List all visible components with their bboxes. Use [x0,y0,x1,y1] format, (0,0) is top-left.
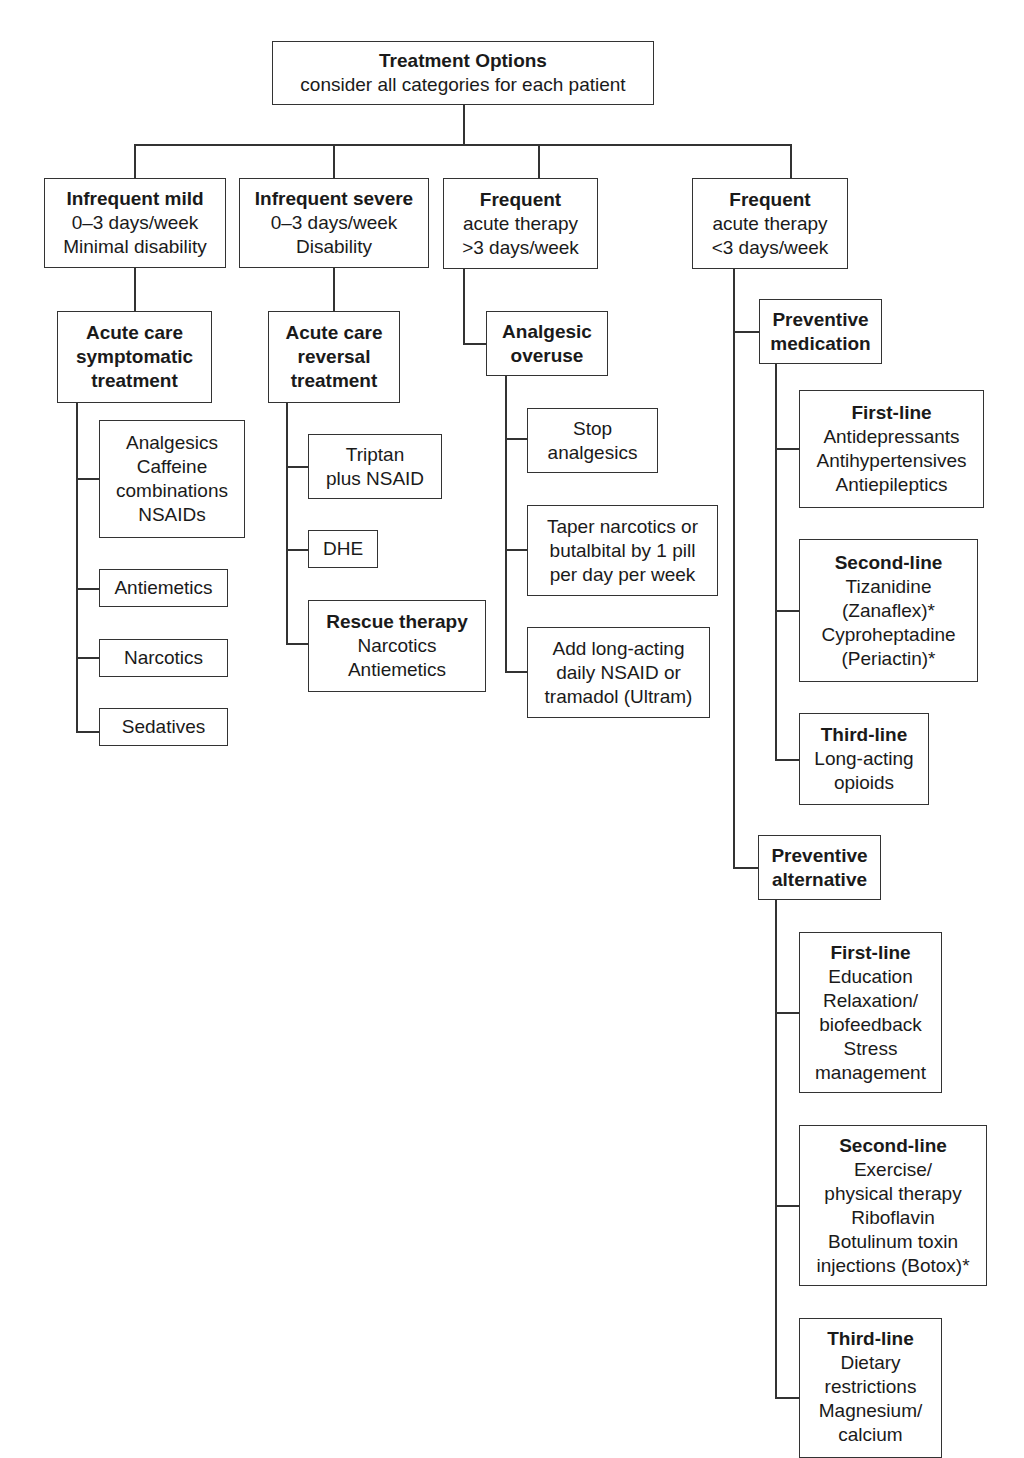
node-title: Third-line [827,1327,914,1351]
medication-first-line: First-line Antidepressants Antihypertens… [799,390,984,508]
connector [286,643,309,645]
symptomatic-item-antiemetics: Antiemetics [99,569,228,607]
connector [733,331,759,333]
node-title: Second-line [839,1134,947,1158]
item-line: injections (Botox)* [816,1254,969,1278]
item-line: NSAIDs [138,503,206,527]
node-title: Acute care [285,321,382,345]
symptomatic-item-narcotics: Narcotics [99,639,228,677]
category-frequent-under-3: Frequent acute therapy <3 days/week [692,178,848,269]
item-line: daily NSAID or [556,661,681,685]
item-line: Antiepileptics [836,473,948,497]
connector [463,105,465,145]
node-title: treatment [91,369,178,393]
node-title: treatment [291,369,378,393]
connector [286,402,288,644]
connector [790,144,792,179]
acute-care-reversal: Acute care reversal treatment [268,311,400,403]
item-line: DHE [323,537,363,561]
connector [76,731,100,733]
category-line: acute therapy [712,212,827,236]
item-line: butalbital by 1 pill [550,539,696,563]
item-line: biofeedback [819,1013,921,1037]
root-title: Treatment Options [379,49,547,73]
preventive-alternative: Preventive alternative [758,835,881,900]
connector [134,144,136,179]
item-line: physical therapy [824,1182,961,1206]
item-line: Triptan [346,443,404,467]
item-line: Antiemetics [348,658,446,682]
item-line: Add long-acting [552,637,684,661]
connector [333,268,335,311]
connector [733,867,759,869]
item-line: Botulinum toxin [828,1230,958,1254]
node-title: overuse [511,344,584,368]
root-subtitle: consider all categories for each patient [300,73,625,97]
item-line: Cyproheptadine [821,623,955,647]
item-line: Dietary [840,1351,900,1375]
item-line: Narcotics [124,646,203,670]
item-line: plus NSAID [326,467,424,491]
item-line: Antiemetics [114,576,212,600]
connector [775,610,799,612]
item-line: Caffeine [137,455,207,479]
connector [76,402,78,732]
symptomatic-item-sedatives: Sedatives [99,708,228,746]
connector [76,588,100,590]
alternative-second-line: Second-line Exercise/ physical therapy R… [799,1125,987,1286]
category-title: Infrequent severe [255,187,413,211]
item-line: restrictions [825,1375,917,1399]
medication-second-line: Second-line Tizanidine (Zanaflex)* Cypro… [799,539,978,682]
connector [505,375,507,672]
connector [463,268,465,344]
item-line: Education [828,965,913,989]
medication-third-line: Third-line Long-acting opioids [799,713,929,805]
item-line: per day per week [550,563,696,587]
reversal-item-dhe: DHE [308,530,378,568]
category-title: Infrequent mild [66,187,203,211]
item-line: Long-acting [814,747,913,771]
preventive-medication: Preventive medication [759,299,882,364]
connector [775,900,777,1398]
overuse-item-stop: Stop analgesics [527,408,658,473]
connector [286,549,309,551]
rescue-therapy: Rescue therapy Narcotics Antiemetics [308,600,486,692]
item-line: Taper narcotics or [547,515,698,539]
alternative-first-line: First-line Education Relaxation/ biofeed… [799,932,942,1093]
item-line: Antihypertensives [817,449,967,473]
connector [775,364,777,760]
connector [733,268,735,868]
item-line: Exercise/ [854,1158,932,1182]
node-title: Acute care [86,321,183,345]
root-node: Treatment Options consider all categorie… [272,41,654,105]
item-line: combinations [116,479,228,503]
item-line: Relaxation/ [823,989,918,1013]
item-line: (Periactin)* [842,647,936,671]
item-line: opioids [834,771,894,795]
category-line: acute therapy [463,212,578,236]
category-line: >3 days/week [462,236,579,260]
item-line: (Zanaflex)* [842,599,935,623]
item-line: Stress [844,1037,898,1061]
category-line: 0–3 days/week [72,211,199,235]
item-line: Analgesics [126,431,218,455]
node-title: reversal [298,345,371,369]
node-title: Third-line [821,723,908,747]
category-line: <3 days/week [712,236,829,260]
connector [505,549,527,551]
connector [76,657,100,659]
category-title: Frequent [480,188,561,212]
item-line: Tizanidine [846,575,932,599]
connector [538,144,540,179]
reversal-item-triptan: Triptan plus NSAID [308,434,442,499]
item-line: Sedatives [122,715,205,739]
connector [463,343,487,345]
node-title: medication [770,332,870,356]
node-title: Preventive [772,308,868,332]
category-line: Minimal disability [63,235,207,259]
item-line: Riboflavin [851,1206,934,1230]
item-line: management [815,1061,926,1085]
node-title: symptomatic [76,345,193,369]
connector [134,268,136,311]
connector [775,1012,799,1014]
